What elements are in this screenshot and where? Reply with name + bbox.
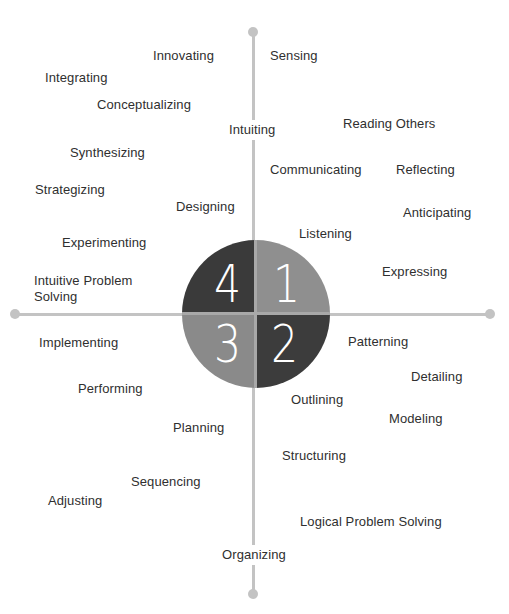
axis-end-top-dot (248, 27, 258, 37)
quadrant-4-number: 4 (214, 258, 241, 310)
quadrant-3-number: 3 (214, 318, 241, 370)
label-sequencing: Sequencing (131, 474, 201, 490)
label-modeling: Modeling (389, 411, 443, 427)
label-planning: Planning (173, 420, 224, 436)
quadrant-1-number: 1 (273, 258, 300, 310)
quadrant-3: 3 (182, 314, 256, 388)
label-intuitive-problem-solving: Intuitive Problem Solving (34, 273, 144, 305)
label-anticipating: Anticipating (403, 205, 471, 221)
label-organizing: Organizing (221, 545, 287, 565)
label-conceptualizing: Conceptualizing (97, 97, 191, 113)
label-integrating: Integrating (45, 70, 108, 86)
label-innovating: Innovating (153, 48, 214, 64)
label-logical-problem-solving: Logical Problem Solving (300, 514, 442, 530)
quadrant-2-number: 2 (271, 318, 298, 370)
label-listening: Listening (299, 226, 352, 242)
label-performing: Performing (78, 381, 143, 397)
label-adjusting: Adjusting (48, 493, 102, 509)
label-experimenting: Experimenting (62, 235, 146, 251)
circle-horizontal-divider (182, 312, 330, 315)
label-reading-others: Reading Others (343, 116, 435, 132)
axis-end-bottom-dot (248, 589, 258, 599)
label-implementing: Implementing (39, 335, 118, 351)
label-communicating: Communicating (270, 162, 362, 178)
label-sensing: Sensing (270, 48, 318, 64)
axis-end-right-dot (485, 309, 495, 319)
label-structuring: Structuring (282, 448, 346, 464)
label-outlining: Outlining (291, 392, 343, 408)
quadrant-2: 2 (256, 314, 330, 388)
quadrant-circle: 4 1 3 2 (182, 240, 330, 388)
label-patterning: Patterning (348, 334, 408, 350)
label-detailing: Detailing (411, 369, 463, 385)
axis-end-left-dot (10, 309, 20, 319)
quadrant-4: 4 (182, 240, 256, 314)
quadrant-1: 1 (256, 240, 330, 314)
label-reflecting: Reflecting (396, 162, 455, 178)
quadrant-diagram: 4 1 3 2 Sensing Intuiting Organizing Inn… (0, 0, 509, 614)
label-expressing: Expressing (382, 264, 447, 280)
label-intuiting: Intuiting (228, 120, 276, 140)
label-synthesizing: Synthesizing (70, 145, 145, 161)
label-designing: Designing (176, 199, 235, 215)
label-strategizing: Strategizing (35, 182, 105, 198)
